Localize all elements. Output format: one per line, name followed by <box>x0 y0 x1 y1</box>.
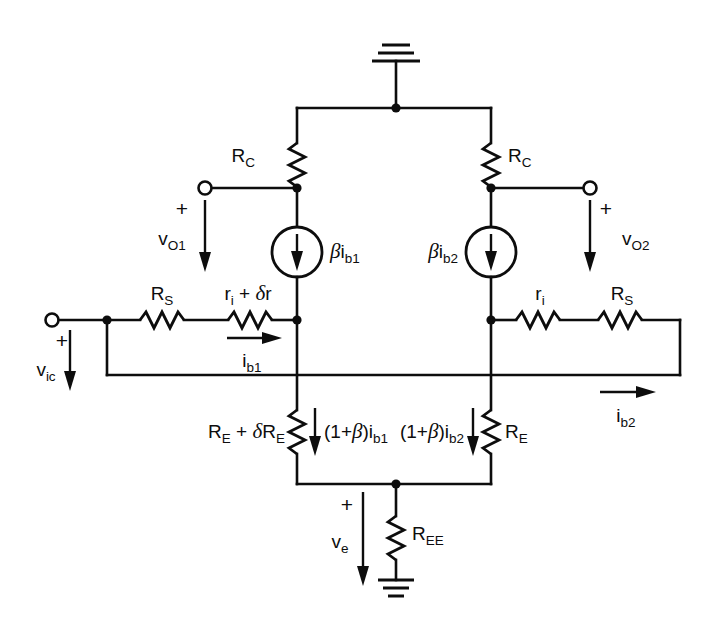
resistor-ree <box>388 484 404 580</box>
polarity-plus-ve: + <box>341 493 353 516</box>
circuit-diagram: RC RC + vO1 + vO2 βib1 <box>0 0 714 627</box>
current-source-right <box>466 188 516 319</box>
resistor-rc-right <box>483 108 499 188</box>
terminal-vic[interactable] <box>46 314 59 327</box>
current-source-left <box>272 188 322 319</box>
polarity-plus-vic: + <box>56 329 68 352</box>
current-arrow-ib1 <box>227 332 282 344</box>
label-ri-left: ri + δr <box>224 281 272 308</box>
label-beta-ib2: βib2 <box>427 239 458 266</box>
label-ree: REE <box>412 523 444 548</box>
ib2-arrow-head <box>636 386 656 398</box>
vo2-arrow-head <box>584 252 596 272</box>
emitter-common-rail <box>297 479 491 488</box>
label-vo1: vO1 <box>158 228 186 253</box>
current-arrow-ie2 <box>467 408 479 456</box>
label-rc-right: RC <box>508 145 532 170</box>
current-arrow-ib2 <box>600 386 656 398</box>
vo1-arrow-head <box>199 252 211 272</box>
label-vic: vic <box>36 359 55 384</box>
label-vo2: vO2 <box>622 228 650 253</box>
label-ib2: ib2 <box>616 405 635 430</box>
resistor-rc-left <box>289 108 305 188</box>
ve-arrow-head <box>357 566 369 586</box>
ve-arrow <box>357 492 369 586</box>
label-beta-ib1: βib1 <box>329 239 360 266</box>
current-arrow-ie1 <box>309 408 321 456</box>
input-branch-right <box>107 312 680 375</box>
ib1-arrow-head <box>262 332 282 344</box>
label-re-left: RE + δRE <box>208 419 285 446</box>
top-supply-rail <box>297 103 491 112</box>
resistor-re-left <box>289 320 305 484</box>
label-rs-left: RS <box>151 283 174 308</box>
label-ri-right: ri <box>535 283 544 308</box>
polarity-plus-vo1: + <box>176 197 188 220</box>
input-branch-left <box>46 312 302 328</box>
label-ie2: (1+β)ib2 <box>400 419 464 446</box>
label-ve: ve <box>331 531 348 556</box>
label-ib1: ib1 <box>242 350 261 375</box>
node-top-center <box>391 103 400 112</box>
label-rc-left: RC <box>232 145 256 170</box>
terminal-vo1[interactable] <box>199 182 212 195</box>
label-re-right: RE <box>505 421 528 446</box>
label-rs-right: RS <box>611 283 634 308</box>
ie2-arrow-head <box>467 436 479 456</box>
label-ie1: (1+β)ib1 <box>324 419 388 446</box>
ground-bottom-icon <box>378 580 414 596</box>
terminal-vo2[interactable] <box>584 182 597 195</box>
vic-arrow-head <box>64 371 76 391</box>
resistor-re-right <box>483 320 499 484</box>
ground-top-icon <box>372 45 420 108</box>
ie1-arrow-head <box>309 436 321 456</box>
polarity-plus-vo2: + <box>600 197 612 220</box>
